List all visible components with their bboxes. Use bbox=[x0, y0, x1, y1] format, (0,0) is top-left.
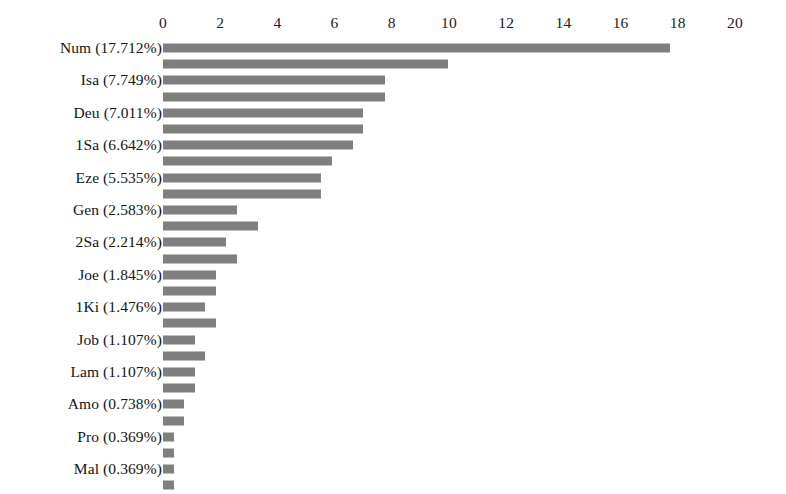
bar-row bbox=[0, 283, 786, 299]
x-axis-tick-label: 14 bbox=[555, 14, 571, 32]
bar-row: Lam (1.107%) bbox=[0, 364, 786, 380]
bar-category-label: Job (1.107%) bbox=[77, 331, 162, 349]
bar-category-label: Amo (0.738%) bbox=[68, 395, 162, 413]
bar bbox=[163, 319, 216, 328]
x-axis-tick-label: 8 bbox=[388, 14, 396, 32]
bar-row bbox=[0, 315, 786, 331]
bar-row bbox=[0, 121, 786, 137]
bar bbox=[163, 44, 670, 53]
bar-category-label: Num (17.712%) bbox=[60, 39, 162, 57]
x-axis-tick-label: 2 bbox=[216, 14, 224, 32]
bar-category-label: Lam (1.107%) bbox=[70, 363, 162, 381]
bar-category-label: Isa (7.749%) bbox=[81, 71, 162, 89]
bar-row: 2Sa (2.214%) bbox=[0, 234, 786, 250]
bar bbox=[163, 416, 184, 425]
bar bbox=[163, 481, 174, 490]
x-axis-tick-label: 4 bbox=[273, 14, 281, 32]
bar-row bbox=[0, 89, 786, 105]
bar bbox=[163, 351, 205, 360]
bar-row: Isa (7.749%) bbox=[0, 72, 786, 88]
x-axis-tick-label: 10 bbox=[441, 14, 457, 32]
bar bbox=[163, 254, 237, 263]
bar-category-label: Deu (7.011%) bbox=[74, 104, 162, 122]
bar-category-label: 2Sa (2.214%) bbox=[76, 233, 162, 251]
bar bbox=[163, 303, 205, 312]
bar-row bbox=[0, 56, 786, 72]
bar-row bbox=[0, 348, 786, 364]
bar-row bbox=[0, 251, 786, 267]
bar-row bbox=[0, 153, 786, 169]
bar-row bbox=[0, 186, 786, 202]
bar-category-label: Gen (2.583%) bbox=[73, 201, 162, 219]
bar bbox=[163, 222, 258, 231]
bar bbox=[163, 76, 385, 85]
bar bbox=[163, 270, 216, 279]
bar-row: Job (1.107%) bbox=[0, 332, 786, 348]
bar-row: Num (17.712%) bbox=[0, 40, 786, 56]
bar bbox=[163, 368, 195, 377]
bar bbox=[163, 157, 332, 166]
bar bbox=[163, 238, 226, 247]
bar-row: Amo (0.738%) bbox=[0, 396, 786, 412]
bar-row bbox=[0, 445, 786, 461]
bar-row: Joe (1.845%) bbox=[0, 267, 786, 283]
bar-row: 1Ki (1.476%) bbox=[0, 299, 786, 315]
bar-row bbox=[0, 218, 786, 234]
x-axis-tick-label: 0 bbox=[159, 14, 167, 32]
bar-row bbox=[0, 380, 786, 396]
bar-category-label: Mal (0.369%) bbox=[74, 460, 162, 478]
bar-row: Eze (5.535%) bbox=[0, 170, 786, 186]
bar bbox=[163, 125, 363, 134]
x-axis-tick-label: 6 bbox=[331, 14, 339, 32]
bar bbox=[163, 335, 195, 344]
bar bbox=[163, 449, 174, 458]
bar bbox=[163, 60, 448, 69]
bar bbox=[163, 108, 363, 117]
bar bbox=[163, 384, 195, 393]
bar bbox=[163, 400, 184, 409]
bar-category-label: Eze (5.535%) bbox=[76, 169, 162, 187]
x-axis: 02468101214161820 bbox=[0, 0, 786, 40]
x-axis-tick-label: 20 bbox=[727, 14, 743, 32]
bar-row: Mal (0.369%) bbox=[0, 461, 786, 477]
x-axis-tick-label: 12 bbox=[498, 14, 514, 32]
bar-category-label: 1Ki (1.476%) bbox=[76, 298, 162, 316]
bar bbox=[163, 465, 174, 474]
bar-category-label: 1Sa (6.642%) bbox=[76, 136, 162, 154]
bar bbox=[163, 92, 385, 101]
bar-row: Gen (2.583%) bbox=[0, 202, 786, 218]
bar bbox=[163, 206, 237, 215]
bar-row: Pro (0.369%) bbox=[0, 429, 786, 445]
bar bbox=[163, 189, 321, 198]
x-axis-tick-label: 16 bbox=[613, 14, 629, 32]
bar-row bbox=[0, 413, 786, 429]
bar bbox=[163, 173, 321, 182]
bar bbox=[163, 432, 174, 441]
bar-row: Deu (7.011%) bbox=[0, 105, 786, 121]
bar bbox=[163, 287, 216, 296]
plot-area: Num (17.712%)Isa (7.749%)Deu (7.011%)1Sa… bbox=[0, 40, 786, 440]
bar bbox=[163, 141, 353, 150]
x-axis-tick-label: 18 bbox=[670, 14, 686, 32]
bar-category-label: Joe (1.845%) bbox=[78, 266, 162, 284]
bar-row bbox=[0, 477, 786, 493]
bar-row: 1Sa (6.642%) bbox=[0, 137, 786, 153]
bar-category-label: Pro (0.369%) bbox=[77, 428, 162, 446]
